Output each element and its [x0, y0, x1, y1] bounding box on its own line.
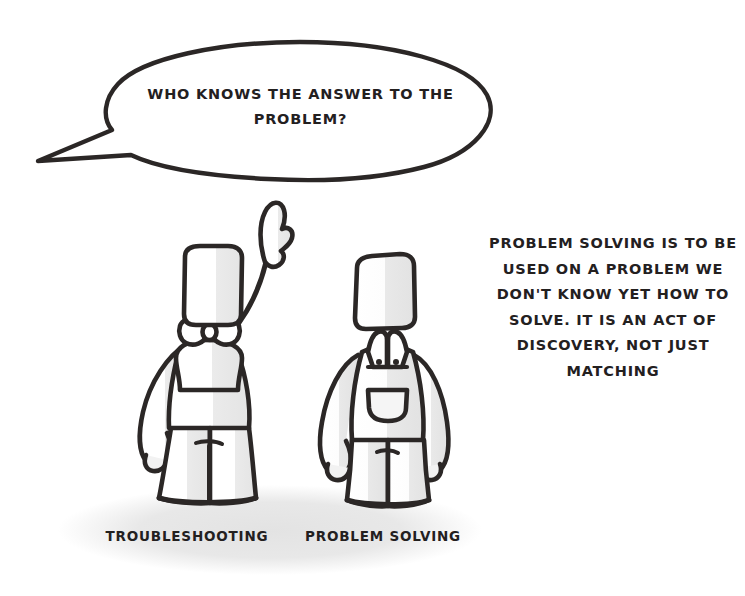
side-note-line-6: MATCHING	[487, 359, 739, 385]
figure-problem-solving	[320, 254, 448, 506]
cartoon-scene: WHO KNOWS THE ANSWER TO THE PROBLEM? PRO…	[0, 0, 745, 596]
right-leg	[210, 428, 256, 503]
side-note-line-5: DISCOVERY, NOT JUST	[487, 333, 739, 359]
speech-bubble-text: WHO KNOWS THE ANSWER TO THE PROBLEM?	[128, 82, 473, 132]
side-note-line-2: USED ON A PROBLEM WE	[487, 257, 739, 283]
upper-torso	[176, 340, 242, 390]
strap-button-left	[376, 359, 382, 365]
figure-label-troubleshooting: TROUBLESHOOTING	[92, 527, 282, 545]
strap-button-right	[393, 359, 399, 365]
side-note-line-4: SOLVE. IT IS AN ACT OF	[487, 308, 739, 334]
figure-troubleshooting	[140, 203, 293, 504]
side-note-line-1: PROBLEM SOLVING IS TO BE	[487, 231, 739, 257]
speech-bubble-line-2: PROBLEM?	[128, 107, 473, 132]
figure-label-problem-solving: PROBLEM SOLVING	[288, 527, 478, 545]
head	[355, 254, 415, 329]
pointing-hand-icon	[261, 203, 293, 267]
side-note-text: PROBLEM SOLVING IS TO BE USED ON A PROBL…	[487, 231, 739, 384]
side-note-line-3: DON'T KNOW YET HOW TO	[487, 282, 739, 308]
bib-pocket	[368, 390, 407, 421]
speech-bubble-line-1: WHO KNOWS THE ANSWER TO THE	[128, 82, 473, 107]
head	[184, 246, 242, 325]
